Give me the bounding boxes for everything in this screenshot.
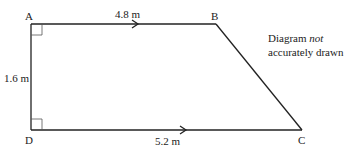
note-line2: accurately drawn xyxy=(268,46,343,58)
trapezium-diagram xyxy=(0,0,346,152)
not-to-scale-note: Diagram not accurately drawn xyxy=(268,31,343,59)
length-label-dc: 5.2 m xyxy=(155,135,180,147)
vertex-label-d: D xyxy=(25,134,33,146)
note-emphasis: not xyxy=(309,32,323,44)
length-label-ad: 1.6 m xyxy=(4,72,29,84)
right-angle-marker-d xyxy=(31,119,42,130)
vertex-label-b: B xyxy=(211,10,218,22)
right-angle-marker-a xyxy=(31,24,42,35)
length-label-ab: 4.8 m xyxy=(115,8,140,20)
note-prefix: Diagram xyxy=(268,32,309,44)
vertex-label-c: C xyxy=(298,134,305,146)
vertex-label-a: A xyxy=(25,10,33,22)
